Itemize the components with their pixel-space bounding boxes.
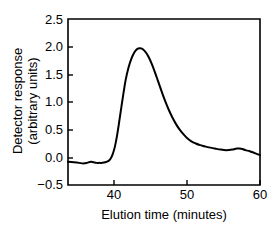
y-tick-label-0.0: 0.0	[45, 150, 63, 165]
x-tick-labels: 40 50 60	[107, 187, 267, 202]
y-tick-label-1.5: 1.5	[45, 67, 63, 82]
y-tick-label-2.5: 2.5	[45, 12, 63, 27]
y-axis-title: Detector response (arbitrary units)	[10, 48, 40, 154]
y-tick-label-1.0: 1.0	[45, 94, 63, 109]
axis-frame	[68, 19, 260, 185]
chart-canvas: Detector response (arbitrary units) 2.5 …	[0, 0, 278, 230]
y-axis-title-line2: (arbitrary units)	[25, 57, 40, 144]
y-tick-labels: 2.5 2.0 1.5 1.0 0.5 0.0 −0.5	[37, 12, 63, 192]
x-tick-label-40: 40	[107, 187, 121, 202]
y-tick-label-0.5: 0.5	[45, 122, 63, 137]
y-tick-label-2.0: 2.0	[45, 39, 63, 54]
chromatogram-figure: Detector response (arbitrary units) 2.5 …	[0, 0, 278, 230]
y-tick-label--0.5: −0.5	[37, 177, 63, 192]
x-axis-title: Elution time (minutes)	[101, 207, 227, 222]
x-tick-label-60: 60	[253, 187, 267, 202]
y-axis-title-line1: Detector response	[10, 48, 25, 154]
x-tick-label-50: 50	[180, 187, 194, 202]
chromatogram-curve	[68, 48, 260, 163]
